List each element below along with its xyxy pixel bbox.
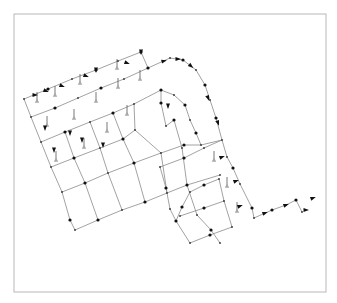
junction-node — [133, 103, 135, 105]
junction-node — [68, 218, 71, 221]
junction-node — [96, 218, 99, 221]
junction-node — [63, 130, 66, 133]
junction-node — [182, 143, 185, 146]
junction-node — [185, 183, 188, 186]
junction-node — [202, 206, 205, 209]
junction-node — [173, 94, 175, 96]
junction-node — [134, 129, 136, 131]
junction-node — [194, 131, 197, 134]
junction-node — [218, 178, 220, 180]
junction-node — [181, 147, 183, 149]
junction-node — [23, 98, 25, 100]
junction-node — [253, 217, 255, 219]
junction-node — [202, 183, 205, 186]
diagram-frame — [14, 14, 326, 292]
junction-node — [53, 106, 56, 109]
junction-node — [89, 121, 91, 123]
junction-node — [270, 208, 273, 211]
junction-node — [189, 242, 191, 244]
junction-node — [159, 166, 161, 168]
junction-node — [72, 156, 75, 159]
junction-node — [159, 88, 162, 91]
junction-node — [231, 166, 234, 169]
junction-node — [214, 116, 217, 119]
junction-node — [165, 125, 167, 127]
network-diagram — [0, 0, 337, 303]
junction-node — [250, 206, 253, 209]
junction-node — [189, 191, 191, 193]
junction-node — [30, 116, 32, 118]
junction-node — [301, 211, 303, 213]
junction-node — [99, 86, 102, 89]
junction-node — [169, 57, 171, 59]
junction-node — [209, 99, 211, 101]
junction-node — [189, 119, 191, 121]
junction-node — [143, 200, 146, 203]
junction-node — [61, 191, 63, 193]
junction-node — [123, 78, 125, 80]
junction-node — [107, 172, 109, 174]
junction-node — [166, 192, 168, 194]
junction-node — [179, 215, 181, 217]
junction-node — [195, 69, 197, 71]
junction-node — [221, 139, 223, 141]
junction-node — [117, 60, 119, 62]
junction-node — [223, 200, 225, 202]
junction-node — [71, 78, 73, 80]
junction-node — [294, 198, 297, 201]
junction-node — [196, 214, 198, 216]
junction-node — [111, 111, 114, 114]
junction-node — [40, 141, 42, 143]
junction-node — [77, 97, 79, 99]
junction-node — [203, 147, 205, 149]
junction-node — [181, 58, 184, 61]
junction-node — [99, 147, 101, 149]
junction-node — [121, 209, 123, 211]
junction-node — [219, 242, 221, 244]
junction-node — [159, 101, 162, 104]
junction-node — [183, 103, 186, 106]
junction-node — [226, 156, 228, 158]
junction-node — [174, 219, 177, 222]
junction-node — [146, 66, 149, 69]
junction-node — [219, 174, 221, 176]
junction-node — [169, 208, 171, 210]
junction-node — [200, 144, 202, 146]
junction-node — [50, 166, 52, 168]
junction-node — [203, 83, 206, 86]
junction-node — [83, 181, 86, 184]
junction-node — [164, 186, 167, 189]
junction-node — [160, 152, 162, 154]
junction-node — [46, 87, 49, 90]
junction-node — [182, 156, 185, 159]
junction-node — [208, 233, 211, 236]
junction-node — [172, 118, 175, 121]
junction-node — [121, 137, 124, 140]
junction-node — [74, 229, 76, 231]
junction-node — [180, 205, 183, 208]
junction-node — [239, 183, 241, 185]
junction-node — [209, 228, 212, 231]
junction-node — [132, 161, 135, 164]
junction-node — [231, 226, 233, 228]
